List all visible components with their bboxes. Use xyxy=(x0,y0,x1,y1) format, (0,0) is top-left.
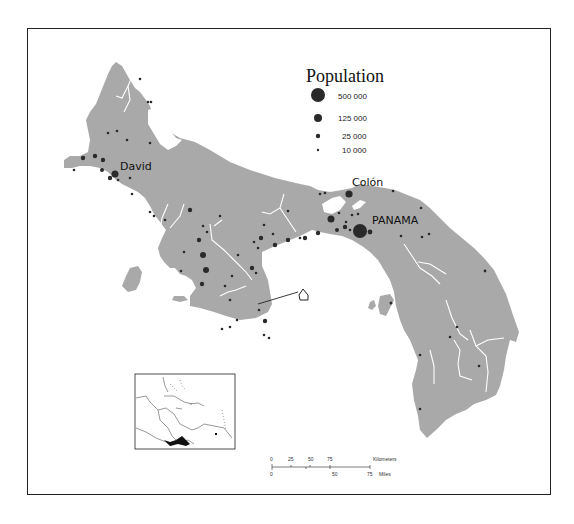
land-mainland xyxy=(64,62,519,438)
scale-mi-label: Miles xyxy=(379,471,391,477)
legend-label-25000: 25 000 xyxy=(342,132,366,141)
island-coiba xyxy=(122,266,142,292)
scale-bar xyxy=(272,464,370,470)
island-pearl xyxy=(378,294,394,316)
scale-km-50: 50 xyxy=(308,456,314,462)
dot-panama-city xyxy=(353,224,367,238)
scale-mi-0: 0 xyxy=(270,471,273,477)
city-label-colon: Colón xyxy=(352,176,383,189)
legend-title: Population xyxy=(306,66,384,87)
scale-km-25: 25 xyxy=(288,456,294,462)
legend-label-10000: 10 000 xyxy=(342,146,366,155)
scale-km-label: Kilometers xyxy=(373,456,397,462)
scale-mi-50: 50 xyxy=(332,471,338,477)
inset-locator-map xyxy=(135,374,235,449)
house-marker-icon xyxy=(299,289,308,300)
scale-km-75: 75 xyxy=(327,456,333,462)
island-small-1 xyxy=(172,296,188,302)
legend-label-500000: 500 000 xyxy=(338,92,367,101)
dot-david xyxy=(112,171,119,178)
city-label-panama: PANAMA xyxy=(372,214,418,227)
panama-map xyxy=(0,0,574,524)
island-small-2 xyxy=(368,300,376,310)
legend-dots xyxy=(311,88,325,151)
legend-label-125000: 125 000 xyxy=(338,114,367,123)
scale-mi-75: 75 xyxy=(367,471,373,477)
city-label-david: David xyxy=(120,160,152,173)
scale-km-0: 0 xyxy=(270,456,273,462)
dot-colon xyxy=(345,190,352,197)
